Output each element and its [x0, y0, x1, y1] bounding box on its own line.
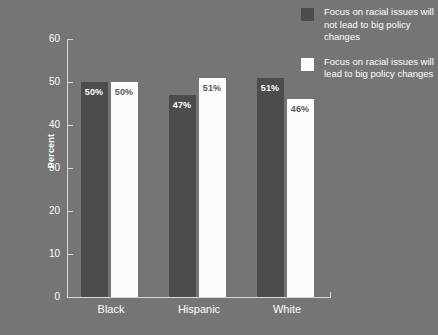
- bar-black-series1: 50%: [111, 82, 138, 297]
- bar-value-label: 51%: [199, 83, 226, 93]
- x-axis-line: [67, 297, 331, 298]
- bar-white-series0: 51%: [257, 78, 284, 297]
- y-axis-tick-label: 0: [16, 292, 60, 302]
- bar-chart: Percent 0102030405060 50%50%47%51%51%46%…: [0, 0, 438, 335]
- legend: Focus on racial issues will not lead to …: [301, 6, 435, 93]
- bar-value-label: 50%: [81, 87, 108, 97]
- y-axis-tick: [68, 297, 73, 298]
- legend-label-1: Focus on racial issues will lead to big …: [324, 56, 435, 81]
- legend-swatch-icon-light: [301, 58, 314, 71]
- y-axis-tick-label: 30: [16, 163, 60, 173]
- bar-value-label: 47%: [169, 100, 196, 110]
- bar-value-label: 50%: [111, 87, 138, 97]
- bar-black-series0: 50%: [81, 82, 108, 297]
- plot-area: 50%50%47%51%51%46%: [67, 39, 331, 297]
- bar-hispanic-series1: 51%: [199, 78, 226, 297]
- category-label-white: White: [243, 303, 331, 315]
- category-label-hispanic: Hispanic: [155, 303, 243, 315]
- y-axis-tick-label: 20: [16, 206, 60, 216]
- y-axis-tick-label: 40: [16, 120, 60, 130]
- y-axis-tick-label: 50: [16, 77, 60, 87]
- category-label-black: Black: [67, 303, 155, 315]
- bar-value-label: 46%: [287, 104, 314, 114]
- y-axis-tick-label: 60: [16, 34, 60, 44]
- bar-value-label: 51%: [257, 83, 284, 93]
- bar-hispanic-series0: 47%: [169, 95, 196, 297]
- bar-white-series1: 46%: [287, 99, 314, 297]
- legend-label-0: Focus on racial issues will not lead to …: [324, 6, 435, 44]
- y-axis-tick-label: 10: [16, 249, 60, 259]
- legend-item-1[interactable]: Focus on racial issues will lead to big …: [301, 56, 435, 81]
- legend-swatch-icon-dark: [301, 8, 314, 21]
- legend-item-0[interactable]: Focus on racial issues will not lead to …: [301, 6, 435, 44]
